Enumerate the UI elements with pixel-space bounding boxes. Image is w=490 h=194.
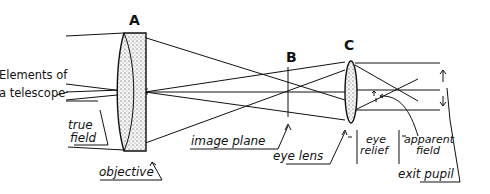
label-true-field-1: true [68, 119, 93, 131]
incoming-ray-top [66, 33, 124, 36]
label-eye-lens: eye lens [273, 150, 323, 162]
label-apparent-field-2: field [416, 145, 440, 156]
telescope-diagram: Elements of a telescope A B C true field… [0, 0, 490, 194]
label-letter-c: C [344, 38, 354, 52]
label-letter-a: A [129, 13, 140, 27]
optical-ray-drawing [0, 0, 490, 194]
label-image-plane: image plane [191, 135, 265, 147]
ray-mid-down [145, 92, 345, 120]
label-exit-pupil: exit pupil [398, 168, 454, 180]
eye-lens [345, 61, 357, 123]
diagram-title-line-2: a telescope [0, 88, 65, 100]
ray-top-to-eyelens [140, 36, 345, 100]
label-true-field-2: field [70, 132, 96, 144]
objective-lens [117, 33, 146, 151]
apparent-ray-up [355, 79, 418, 110]
incoming-ray-bottom [68, 147, 124, 150]
label-eye-relief-2: relief [360, 145, 388, 156]
label-letter-b: B [286, 50, 297, 64]
apparent-ray-down [355, 65, 418, 101]
apparent-field-leader [380, 96, 418, 136]
ray-mid-up [145, 62, 345, 92]
label-objective: objective [99, 166, 154, 178]
diagram-title-line-1: Elements of [0, 70, 67, 82]
